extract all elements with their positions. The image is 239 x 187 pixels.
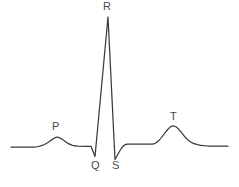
label-s-wave: S [112, 160, 119, 171]
label-p-wave: P [52, 121, 59, 132]
label-q-wave: Q [91, 160, 100, 171]
figure-background [0, 0, 239, 187]
label-t-wave: T [170, 111, 177, 122]
ecg-waveform-figure: P Q R S T [0, 0, 239, 187]
label-r-wave: R [103, 1, 111, 12]
ecg-trace-svg [0, 0, 239, 187]
